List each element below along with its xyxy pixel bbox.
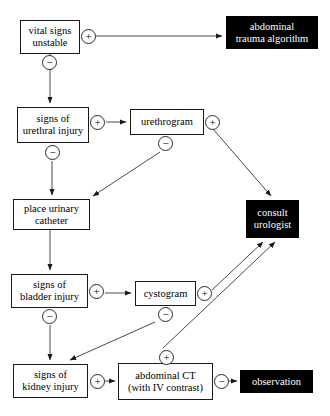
node-urethrogram[interactable]: urethrogram — [130, 109, 204, 135]
sign-positive-urethrogram: + — [205, 115, 220, 130]
node-label: vital signs unstable — [27, 25, 74, 49]
node-vital-signs-unstable[interactable]: vital signs unstable — [20, 20, 80, 54]
node-label: urethrogram — [139, 116, 195, 128]
node-label: abdominal CT (with IV contrast) — [126, 370, 205, 394]
node-label: abdominal trauma algorithm — [234, 21, 311, 45]
node-signs-of-urethral-injury[interactable]: signs of urethral injury — [17, 107, 89, 143]
sign-negative-bladder-injury: − — [42, 309, 57, 324]
node-signs-of-kidney-injury[interactable]: signs of kidney injury — [13, 364, 88, 398]
node-place-urinary-catheter[interactable]: place urinary catheter — [13, 199, 90, 230]
node-label: observation — [250, 376, 303, 388]
node-cystogram[interactable]: cystogram — [135, 281, 196, 306]
sign-negative-cystogram: − — [158, 307, 173, 322]
node-consult-urologist[interactable]: consult urologist — [246, 200, 299, 238]
edge-urethrogram-to-urinary-catheter — [93, 152, 160, 196]
node-label: signs of kidney injury — [20, 369, 80, 393]
sign-negative-abdominal-ct: − — [214, 374, 229, 389]
edge-cystogram-to-consult-urologist — [212, 242, 263, 290]
sign-positive-bladder-injury: + — [89, 284, 104, 299]
sign-negative-urethral-injury: − — [45, 145, 60, 160]
node-label: signs of bladder injury — [18, 279, 81, 303]
node-label: consult urologist — [252, 207, 293, 231]
node-label: cystogram — [142, 288, 190, 300]
sign-positive-kidney-injury: + — [90, 374, 105, 389]
sign-negative-vital-signs: − — [42, 55, 57, 70]
sign-negative-urethrogram: − — [158, 136, 173, 151]
sign-positive-cystogram: + — [197, 286, 212, 301]
sign-positive-urethral-injury: + — [90, 115, 105, 130]
node-label: place urinary catheter — [22, 203, 81, 227]
node-signs-of-bladder-injury[interactable]: signs of bladder injury — [11, 274, 88, 308]
flowchart-diagram: vital signs unstable abdominal trauma al… — [0, 0, 330, 416]
sign-positive-vital-signs: + — [81, 29, 96, 44]
node-label: signs of urethral injury — [21, 113, 85, 137]
sign-positive-abdominal-ct-urologist: + — [159, 350, 174, 365]
edge-urethrogram-to-consult-urologist — [213, 129, 271, 196]
node-abdominal-trauma-algorithm[interactable]: abdominal trauma algorithm — [226, 16, 318, 49]
edge-cystogram-to-kidney-injury — [70, 322, 155, 360]
node-abdominal-ct[interactable]: abdominal CT (with IV contrast) — [118, 363, 213, 400]
node-observation[interactable]: observation — [240, 370, 313, 393]
